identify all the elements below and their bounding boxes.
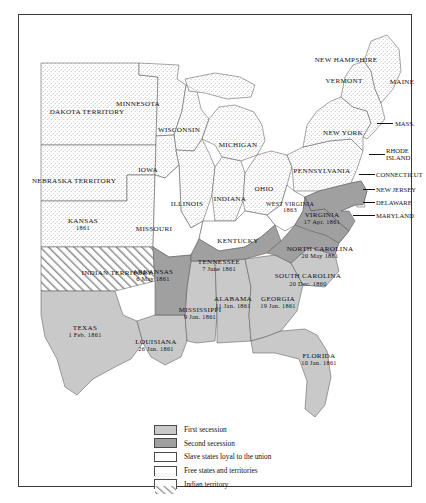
legend-item-loyal-slave-states: Slave states loyal to the union — [154, 450, 271, 464]
legend-swatch-free-states — [154, 466, 177, 476]
leader-line-connecticut — [359, 174, 375, 175]
legend-label: First secession — [184, 425, 227, 434]
map-label-delaware: DELAWARE — [376, 199, 412, 206]
map-label-new-jersey: NEW JERSEY — [376, 186, 416, 193]
legend-item-first-secession: First secession — [154, 423, 271, 437]
legend-label: Free states and territories — [184, 466, 258, 475]
legend-swatch-second-secession — [154, 438, 177, 448]
legend-label: Slave states loyal to the union — [184, 452, 271, 461]
map-frame: DAKOTA TERRITORY MINNESOTA WISCONSIN MIC… — [18, 14, 412, 487]
legend-label: Indian territory — [184, 480, 228, 489]
legend-swatch-indian-territory — [154, 479, 177, 489]
legend-swatch-first-secession — [154, 425, 177, 435]
legend-swatch-loyal-slave-states — [154, 452, 177, 462]
legend-item-indian-territory: Indian territory — [154, 477, 271, 491]
leader-line-maryland — [353, 215, 375, 216]
leader-line-new-jersey — [363, 189, 375, 190]
map-label-rhode-island: RHODE ISLAND — [386, 147, 426, 162]
map-label-mass: MASS. — [395, 120, 415, 127]
map-graphic — [19, 15, 413, 488]
legend-item-second-secession: Second secession — [154, 437, 271, 451]
map-legend: First secession Second secession Slave s… — [154, 423, 271, 491]
map-label-connecticut: CONNECTICUT — [376, 171, 423, 178]
map-label-maryland: MARYLAND — [376, 212, 414, 219]
leader-line-rhode-island — [369, 154, 385, 155]
leader-line-mass — [377, 123, 393, 124]
legend-label: Second secession — [184, 439, 235, 448]
leader-line-delaware — [363, 202, 375, 203]
legend-item-free-states: Free states and territories — [154, 464, 271, 478]
